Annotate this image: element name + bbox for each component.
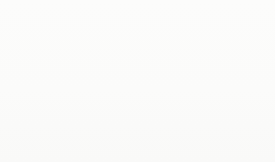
slice-label-under-5: Under 5 (10%) bbox=[160, 23, 217, 33]
page-gutter-rule bbox=[4, 0, 5, 162]
slice-label-75-and-over: 75 and over (4%) bbox=[58, 10, 122, 20]
chart-area: 75 and over (4%) Under 5 (10%) 55 to 74 … bbox=[0, 0, 275, 162]
slice-label-5-to-17: 5 to 17 (26%) bbox=[200, 80, 250, 90]
slice-label-35-to-54: 35 to 54 (21%) bbox=[8, 100, 63, 110]
pie-chart-figure: 75 and over (4%) Under 5 (10%) 55 to 74 … bbox=[0, 0, 275, 162]
slice-label-55-to-74: 55 to 74 (11%) bbox=[22, 28, 76, 38]
